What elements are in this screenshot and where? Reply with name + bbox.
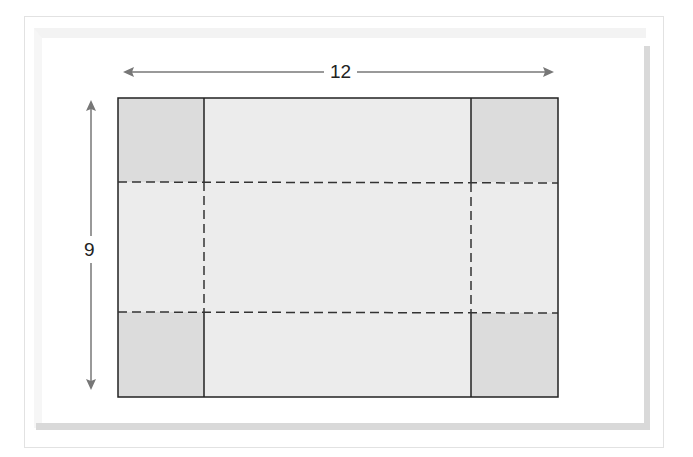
corner-square-bottom-right	[471, 313, 558, 397]
width-label: 12	[324, 62, 357, 81]
corner-square-top-right	[471, 98, 558, 182]
corner-square-top-left	[118, 98, 204, 182]
height-label: 9	[84, 236, 95, 263]
corner-square-bottom-left	[118, 312, 204, 397]
